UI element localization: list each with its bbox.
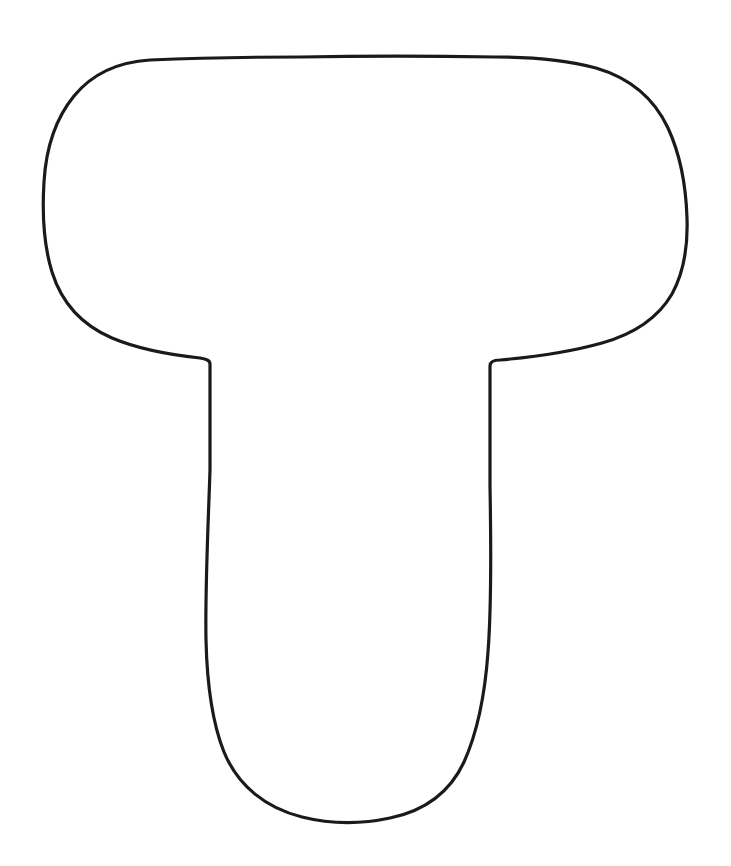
drawing-canvas <box>0 0 731 866</box>
letter-t-outline-drawing <box>0 0 731 866</box>
letter-t-outline-path <box>43 56 687 822</box>
